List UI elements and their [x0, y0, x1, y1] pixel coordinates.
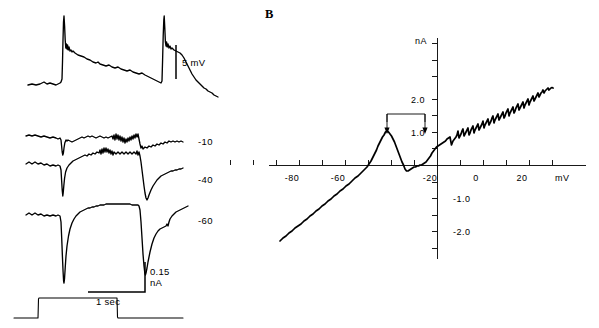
y-tick-label-2: -1.0 [453, 194, 471, 204]
current-time-scale-bars: 0.15 nA 1 sec [88, 262, 170, 307]
y-tick-label-1: 1.0 [411, 128, 425, 138]
x-axis-tick-labels: -80 -60 -20 0 20 [285, 173, 528, 183]
x-tick-label-0: -80 [285, 173, 300, 183]
i-v-curve [280, 88, 553, 242]
y-tick-label-0: 2.0 [411, 95, 425, 105]
y-axis-ticks [432, 43, 437, 248]
x-tick-label-4: 20 [516, 173, 527, 183]
y-axis-unit-label: nA [415, 36, 427, 46]
x-axis-ticks [230, 160, 552, 165]
axes [269, 38, 586, 259]
panel-b-svg: B [255, 0, 599, 328]
current-trace-label-minus40: -40 [198, 174, 213, 185]
current-trace-label-minus60: -60 [198, 215, 213, 226]
current-trace-minus60: -60 [26, 204, 213, 283]
x-tick-label-2: -20 [423, 173, 438, 183]
current-scale-label-line1: 0.15 [150, 266, 170, 277]
current-trace-minus10: -10 [26, 134, 213, 155]
panel-a-svg: 5 mV -10 -40 -60 0.15 nA 1 s [0, 0, 260, 328]
panel-b: B [255, 0, 599, 328]
x-tick-label-1: -60 [331, 173, 346, 183]
voltage-scale-bar: 5 mV [176, 45, 206, 79]
current-trace-label-minus10: -10 [198, 136, 213, 147]
voltage-scale-label: 5 mV [182, 57, 206, 68]
current-scale-label-line2: nA [150, 277, 163, 288]
x-tick-label-3: 0 [473, 173, 479, 183]
bracket-arrow-left [384, 114, 389, 134]
current-trace-minus40: -40 [26, 148, 213, 200]
panel-a: 5 mV -10 -40 -60 0.15 nA 1 s [0, 0, 260, 328]
x-axis-unit-label: mV [555, 173, 570, 183]
figure-container: 5 mV -10 -40 -60 0.15 nA 1 s [0, 0, 599, 328]
panel-letter-b: B [265, 7, 273, 21]
y-tick-label-3: -2.0 [453, 227, 471, 237]
